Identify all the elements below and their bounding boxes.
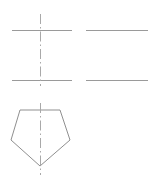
drawing-canvas: [0, 0, 153, 181]
technical-drawing-svg: [0, 0, 153, 181]
